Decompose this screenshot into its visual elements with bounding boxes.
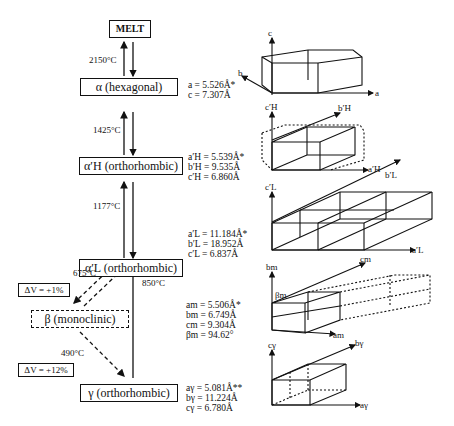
phase-beta: β (monoclinic) (31, 310, 129, 328)
axis-alphah-b: b′H (338, 103, 351, 113)
axis-beta-c: cm (360, 254, 371, 264)
param: c′L = 6.837Å (188, 249, 247, 259)
param: cm = 9.304Å (186, 320, 241, 330)
temp-melt-alpha: 2150°C (89, 55, 117, 65)
params-alpha-l: a′L = 11.184Å* b′L = 18.952Å c′L = 6.837… (188, 229, 247, 259)
params-beta: am = 5.506Å* bm = 6.749Å cm = 9.304Å βm … (186, 300, 241, 340)
phase-alpha: α (hexagonal) (80, 78, 178, 96)
param: bm = 6.749Å (186, 310, 241, 320)
axis-alpha-a: a (375, 88, 379, 98)
temp-beta-gamma: 490°C (61, 348, 84, 358)
temp-alphah-alphal: 1177°C (93, 201, 120, 211)
phase-gamma: γ (orthorhombic) (80, 384, 178, 402)
axis-alphah-c: c′H (265, 102, 277, 112)
temp-alpha-alphah: 1425°C (93, 125, 121, 135)
param: a′H = 5.539Å* (188, 152, 244, 162)
param: c = 7.307Å (188, 90, 235, 100)
params-alpha: a = 5.526Å* c = 7.307Å (188, 80, 235, 100)
axis-alpha-b: b (238, 68, 243, 78)
params-gamma: aγ = 5.081Å** bγ = 11.224Å cγ = 6.780Å (186, 383, 242, 413)
phase-melt: MELT (109, 20, 151, 38)
param: b′L = 18.952Å (188, 239, 247, 249)
param: cγ = 6.780Å (186, 403, 242, 413)
axis-alphah-a: a′H (368, 164, 380, 174)
axis-alphal-a: a′L (412, 245, 423, 255)
axis-beta-angle: βm (275, 290, 287, 300)
volume-change-1: ΔV = +1% (18, 283, 70, 297)
params-alpha-h: a′H = 5.539Å* b′H = 9.535Å c′H = 6.860Å (188, 152, 244, 182)
axis-alphal-c: c′L (265, 182, 276, 192)
volume-change-2: ΔV = +12% (18, 363, 74, 377)
param: b′H = 9.535Å (188, 162, 244, 172)
axis-beta-a: am (333, 330, 344, 340)
axis-alphal-b: b′L (385, 170, 397, 180)
temp-gamma-alphal: 850°C (142, 278, 165, 288)
param: a′L = 11.184Å* (188, 229, 247, 239)
param: βm = 94.62° (186, 330, 241, 340)
axis-gamma-b: bγ (355, 338, 363, 348)
param: a = 5.526Å* (188, 80, 235, 90)
axis-gamma-a: aγ (360, 400, 368, 410)
axis-alpha-c: c (268, 28, 272, 38)
param: bγ = 11.224Å (186, 393, 242, 403)
param: am = 5.506Å* (186, 300, 241, 310)
param: c′H = 6.860Å (188, 172, 244, 182)
temp-alphal-beta: 675°C (73, 268, 96, 278)
axis-gamma-c: cγ (268, 340, 276, 350)
param: aγ = 5.081Å** (186, 383, 242, 393)
phase-alpha-h: α′H (orthorhombic) (79, 157, 183, 175)
axis-beta-b: bm (266, 262, 278, 272)
